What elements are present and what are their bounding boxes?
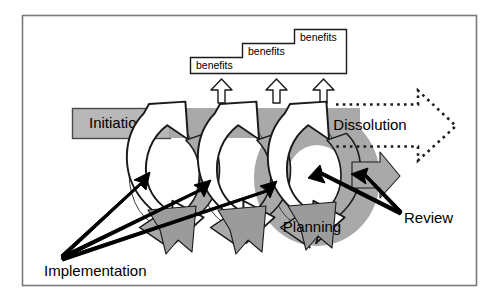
implementation-label-text: Implementation <box>44 262 147 279</box>
initiation-band <box>170 108 360 138</box>
benefits-step-1-label: benefits <box>196 59 233 71</box>
dissolution-label-text: Dissolution <box>333 116 406 133</box>
benefits-step-2-label: benefits <box>248 45 285 57</box>
review-label-text: Review <box>404 209 453 226</box>
project-lifecycle-diagram: benefits benefits benefits Initiation <box>0 0 498 301</box>
diagram-canvas: benefits benefits benefits Initiation <box>0 0 498 301</box>
benefits-step-3-label: benefits <box>300 31 337 43</box>
planning-label-text: Planning <box>283 218 341 235</box>
